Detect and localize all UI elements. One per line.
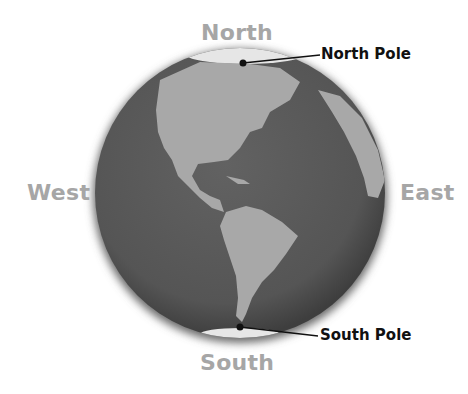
label-north-pole: North Pole	[321, 45, 411, 63]
south-pole-dot	[237, 324, 244, 331]
label-east: East	[400, 180, 455, 205]
north-pole-dot	[240, 60, 247, 67]
label-west: West	[27, 180, 90, 205]
label-north: North	[201, 20, 273, 45]
earth-diagram: North South West East North Pole South P…	[0, 0, 468, 394]
label-south-pole: South Pole	[320, 326, 411, 344]
label-south: South	[200, 350, 274, 375]
